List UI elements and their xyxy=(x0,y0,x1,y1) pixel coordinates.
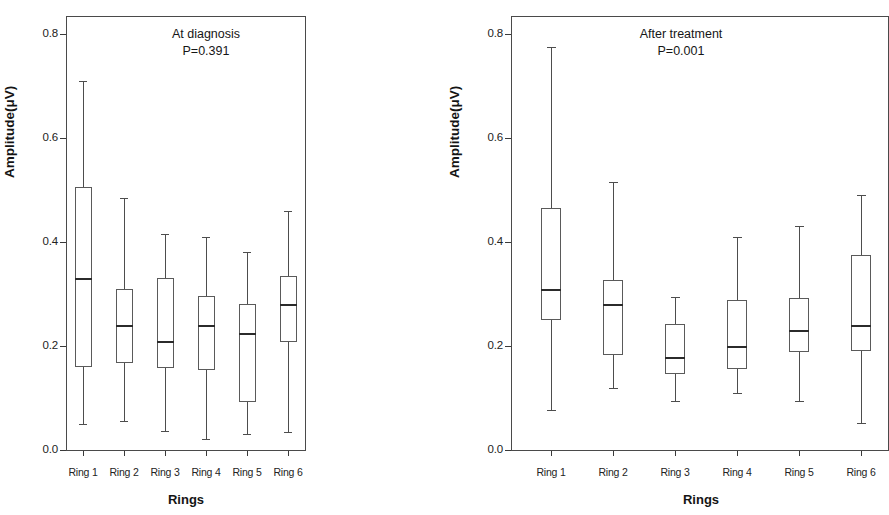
x-tick-mark xyxy=(247,451,248,456)
whisker-lower xyxy=(551,320,552,410)
whisker-cap-upper xyxy=(120,198,128,199)
median-line xyxy=(239,333,256,335)
x-tick-mark xyxy=(551,451,552,456)
whisker-upper xyxy=(288,211,289,276)
panel-title-text: At diagnosis xyxy=(172,27,240,41)
whisker-lower xyxy=(675,374,676,401)
x-tick-mark xyxy=(675,451,676,456)
whisker-upper xyxy=(165,234,166,278)
median-line xyxy=(75,278,92,280)
whisker-upper xyxy=(206,237,207,295)
panel-title: After treatment P=0.001 xyxy=(581,26,781,60)
x-tick-label-ring-1: Ring 1 xyxy=(521,466,581,478)
whisker-lower xyxy=(861,351,862,423)
panel-after-treatment: Amplitude(μV) 0.8 0.6 0.4 0.2 0.0 After … xyxy=(445,0,889,515)
whisker-cap-upper xyxy=(795,226,804,227)
y-axis-title: Amplitude(μV) xyxy=(447,0,462,178)
whisker-cap-lower xyxy=(161,431,169,432)
iqr-box xyxy=(280,276,297,342)
x-tick-mark xyxy=(861,451,862,456)
y-tick-label: 0.8 xyxy=(467,27,503,39)
iqr-box xyxy=(541,208,561,320)
whisker-lower xyxy=(247,402,248,435)
y-tick-label: 0.6 xyxy=(467,131,503,143)
whisker-cap-upper xyxy=(79,81,87,82)
x-tick-mark xyxy=(737,451,738,456)
median-line xyxy=(727,346,747,348)
iqr-box xyxy=(851,255,871,351)
iqr-box xyxy=(727,300,747,369)
whisker-upper xyxy=(675,297,676,324)
whisker-upper xyxy=(861,195,862,255)
whisker-cap-upper xyxy=(733,237,742,238)
whisker-upper xyxy=(247,252,248,304)
median-line xyxy=(198,325,215,327)
median-line xyxy=(665,357,685,359)
panel-pvalue: P=0.391 xyxy=(126,43,286,60)
x-axis-title: Rings xyxy=(126,492,246,507)
whisker-upper xyxy=(124,198,125,289)
plot-frame xyxy=(511,16,889,451)
y-tick-label: 0.2 xyxy=(467,339,503,351)
median-line xyxy=(541,289,561,291)
x-tick-label-ring-6: Ring 6 xyxy=(258,466,318,478)
x-tick-mark xyxy=(206,451,207,456)
x-tick-label-ring-4: Ring 4 xyxy=(707,466,767,478)
y-tick-label: 0.0 xyxy=(22,443,58,455)
whisker-cap-lower xyxy=(202,439,210,440)
whisker-cap-lower xyxy=(284,432,292,433)
median-line xyxy=(789,330,809,332)
iqr-box xyxy=(789,298,809,353)
x-tick-mark xyxy=(613,451,614,456)
y-tick-label: 0.4 xyxy=(467,235,503,247)
median-line xyxy=(157,341,174,343)
iqr-box xyxy=(75,187,92,366)
panel-at-diagnosis: Amplitude(μV) 0.8 0.6 0.4 0.2 0.0 At dia… xyxy=(0,0,445,515)
x-tick-label-ring-2: Ring 2 xyxy=(583,466,643,478)
whisker-lower xyxy=(737,369,738,393)
whisker-cap-lower xyxy=(79,424,87,425)
y-tick-label: 0.4 xyxy=(22,235,58,247)
panel-pvalue: P=0.001 xyxy=(581,43,781,60)
whisker-upper xyxy=(737,237,738,300)
median-line xyxy=(851,325,871,327)
median-line xyxy=(603,304,623,306)
whisker-upper xyxy=(551,47,552,208)
whisker-cap-upper xyxy=(609,182,618,183)
boxplot-figure: Amplitude(μV) 0.8 0.6 0.4 0.2 0.0 At dia… xyxy=(0,0,889,515)
x-tick-label-ring-6: Ring 6 xyxy=(831,466,889,478)
y-tick-label: 0.6 xyxy=(22,131,58,143)
whisker-lower xyxy=(83,367,84,424)
x-tick-mark xyxy=(799,451,800,456)
whisker-cap-lower xyxy=(795,401,804,402)
x-tick-label-ring-3: Ring 3 xyxy=(645,466,705,478)
whisker-upper xyxy=(613,182,614,280)
x-tick-mark xyxy=(124,451,125,456)
whisker-cap-lower xyxy=(609,388,618,389)
whisker-lower xyxy=(288,342,289,432)
x-tick-mark xyxy=(288,451,289,456)
x-tick-mark xyxy=(165,451,166,456)
panel-title: At diagnosis P=0.391 xyxy=(126,26,286,60)
panel-title-text: After treatment xyxy=(640,27,723,41)
x-tick-mark xyxy=(83,451,84,456)
whisker-cap-lower xyxy=(857,423,866,424)
median-line xyxy=(280,304,297,306)
whisker-upper xyxy=(83,81,84,188)
whisker-cap-lower xyxy=(671,401,680,402)
y-tick-label: 0.2 xyxy=(22,339,58,351)
whisker-cap-upper xyxy=(202,237,210,238)
whisker-cap-lower xyxy=(733,393,742,394)
whisker-lower xyxy=(165,368,166,430)
whisker-cap-upper xyxy=(671,297,680,298)
whisker-cap-upper xyxy=(547,47,556,48)
whisker-cap-lower xyxy=(243,434,251,435)
whisker-cap-upper xyxy=(243,252,251,253)
whisker-upper xyxy=(799,226,800,297)
whisker-lower xyxy=(799,352,800,401)
whisker-cap-lower xyxy=(547,410,556,411)
iqr-box xyxy=(603,280,623,355)
whisker-cap-upper xyxy=(161,234,169,235)
x-tick-label-ring-5: Ring 5 xyxy=(769,466,829,478)
iqr-box xyxy=(239,304,256,401)
